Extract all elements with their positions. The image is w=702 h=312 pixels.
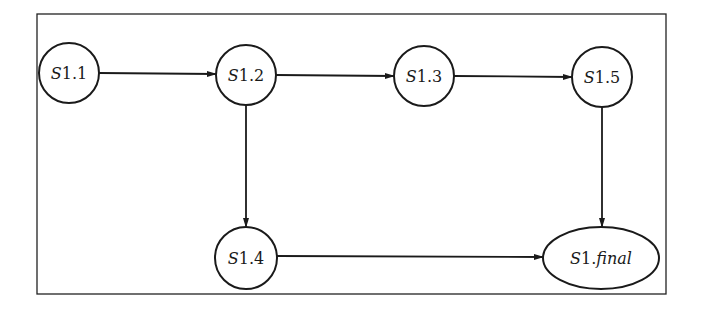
- node-s1-5: S1.5: [572, 47, 632, 107]
- node-label: S1.5: [584, 68, 620, 87]
- edge-s1-2-to-s1-3: [276, 75, 394, 76]
- edge-s1-4-to-s1-final: [277, 256, 543, 257]
- node-label: S1.4: [228, 249, 264, 268]
- node-label: S1.1: [51, 64, 87, 83]
- state-flow-diagram: S1.1 S1.2 S1.3 S1.5 S1.4 S1.final: [0, 0, 702, 312]
- node-s1-1: S1.1: [39, 43, 99, 103]
- edge-s1-3-to-s1-5: [454, 76, 572, 77]
- node-s1-3: S1.3: [394, 46, 454, 106]
- edge-s1-1-to-s1-2: [99, 73, 216, 74]
- node-s1-2: S1.2: [216, 45, 276, 105]
- node-s1-final: S1.final: [543, 227, 659, 289]
- node-label: S1.final: [570, 249, 632, 268]
- node-s1-4: S1.4: [215, 227, 277, 289]
- node-label: S1.2: [228, 66, 264, 85]
- node-label: S1.3: [406, 67, 442, 86]
